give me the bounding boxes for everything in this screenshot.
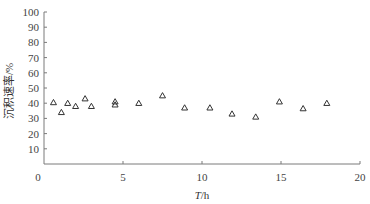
scatter-chart: 102030405060708090100 5101520 0 T/h 沉积速率…: [0, 0, 370, 204]
y-tick-label: 60: [28, 67, 40, 79]
triangle-marker-icon: [324, 100, 330, 105]
data-points: [50, 93, 329, 120]
triangle-marker-icon: [58, 109, 64, 114]
y-tick-label: 100: [23, 6, 40, 18]
origin-label: 0: [35, 171, 41, 183]
triangle-marker-icon: [65, 100, 71, 105]
x-tick-label: 15: [276, 171, 288, 183]
triangle-marker-icon: [50, 99, 56, 104]
triangle-marker-icon: [82, 96, 88, 101]
triangle-marker-icon: [73, 103, 79, 108]
y-tick-label: 20: [28, 128, 40, 140]
y-axis-ticks: 102030405060708090100: [23, 6, 48, 155]
triangle-marker-icon: [207, 105, 213, 110]
y-axis-title: 沉积速率/%: [2, 63, 15, 119]
axes: [44, 12, 360, 164]
triangle-marker-icon: [253, 114, 259, 119]
y-tick-label: 30: [28, 112, 40, 124]
triangle-marker-icon: [160, 93, 166, 98]
y-tick-label: 80: [28, 36, 40, 48]
triangle-marker-icon: [88, 103, 94, 108]
triangle-marker-icon: [182, 105, 188, 110]
y-tick-label: 10: [28, 143, 40, 155]
triangle-marker-icon: [136, 100, 142, 105]
triangle-marker-icon: [300, 106, 306, 111]
triangle-marker-icon: [276, 99, 282, 104]
y-tick-label: 50: [28, 82, 40, 94]
x-axis-title-unit: /h: [201, 189, 210, 201]
x-tick-label: 5: [120, 171, 126, 183]
y-tick-label: 90: [28, 21, 40, 33]
x-tick-label: 20: [355, 171, 367, 183]
y-tick-label: 70: [28, 52, 40, 64]
x-tick-label: 10: [197, 171, 209, 183]
x-axis-title: T/h: [195, 189, 210, 201]
triangle-marker-icon: [229, 111, 235, 116]
y-tick-label: 40: [28, 97, 40, 109]
